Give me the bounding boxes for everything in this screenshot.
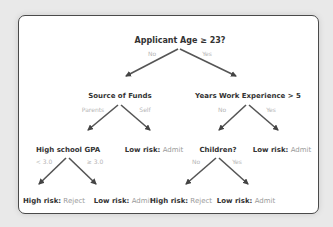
edge-label-gpa-low: < 3.0 — [36, 158, 52, 165]
risk-label: Low risk: — [253, 146, 289, 154]
gpa-question: High school GPA — [36, 146, 100, 154]
tree-arrows — [0, 0, 333, 227]
edge-label-self: Self — [139, 106, 150, 113]
source-of-funds-question: Source of Funds — [88, 92, 152, 100]
risk-label: Low risk: — [217, 197, 253, 205]
arrow-children-no — [186, 158, 216, 184]
edge-label-children-yes: Yes — [232, 158, 242, 165]
leaf-children-yes-admit: Low risk: Admit — [217, 197, 276, 205]
edge-label-parents: Parents — [82, 106, 104, 113]
children-question: Children? — [199, 146, 236, 154]
leaf-self-admit: Low risk: Admit — [125, 146, 184, 154]
edge-label-root-yes: Yes — [202, 50, 212, 57]
edge-label-work-no: No — [218, 106, 226, 113]
decision-label: Admit — [255, 197, 276, 205]
decision-label: Reject — [190, 197, 212, 205]
edge-label-root-no: No — [148, 50, 156, 57]
edge-label-gpa-high: ≥ 3.0 — [87, 158, 103, 165]
leaf-work-yes-admit: Low risk: Admit — [253, 146, 312, 154]
leaf-gpa-low-reject: High risk: Reject — [23, 197, 85, 205]
edge-label-work-yes: Yes — [266, 106, 276, 113]
risk-label: Low risk: — [94, 197, 130, 205]
leaf-gpa-high-admit: Low risk: Admit — [94, 197, 153, 205]
decision-label: Admit — [163, 146, 184, 154]
root-question: Applicant Age ≥ 23? — [135, 36, 226, 45]
work-experience-question: Years Work Experience > 5 — [195, 92, 301, 100]
leaf-children-no-reject: High risk: Reject — [150, 197, 212, 205]
risk-label: High risk: — [23, 197, 61, 205]
edge-label-children-no: No — [192, 158, 200, 165]
risk-label: Low risk: — [125, 146, 161, 154]
risk-label: High risk: — [150, 197, 188, 205]
decision-label: Reject — [63, 197, 85, 205]
decision-label: Admit — [291, 146, 312, 154]
